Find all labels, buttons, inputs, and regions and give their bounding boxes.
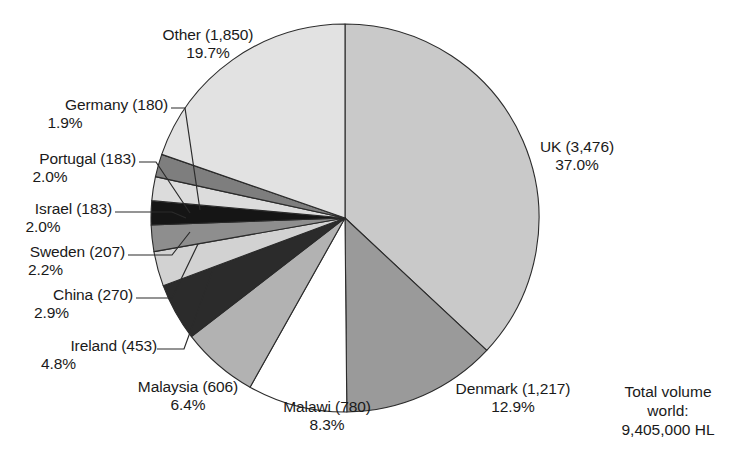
slice-label-ireland: Ireland (453) 4.8% xyxy=(0,337,157,373)
slice-label-malawi-percent: 8.3% xyxy=(253,416,401,434)
slice-label-china: China (270) 2.9% xyxy=(0,286,133,322)
slice-label-uk: UK (3,476) 37.0% xyxy=(512,138,642,174)
slice-label-other: Other (1,850) 19.7% xyxy=(118,26,298,62)
slice-label-israel-name: Israel (183) xyxy=(0,200,112,218)
slice-label-malaysia: Malaysia (606) 6.4% xyxy=(108,378,268,414)
slice-label-malaysia-name: Malaysia (606) xyxy=(108,378,268,396)
slice-label-portugal-percent: 2.0% xyxy=(0,168,136,186)
slice-label-sweden: Sweden (207) 2.2% xyxy=(0,243,125,279)
slice-label-other-name: Other (1,850) xyxy=(118,26,298,44)
pie-slices xyxy=(151,24,539,412)
slice-label-denmark: Denmark (1,217) 12.9% xyxy=(425,380,601,416)
slice-label-other-percent: 19.7% xyxy=(118,44,298,62)
slice-label-portugal-name: Portugal (183) xyxy=(0,150,136,168)
slice-label-ireland-percent: 4.8% xyxy=(0,355,157,373)
slice-label-sweden-percent: 2.2% xyxy=(0,261,125,279)
pie-chart: Other (1,850) 19.7% Germany (180) 1.9% P… xyxy=(0,0,740,450)
total-volume-note: Total volume world: 9,405,000 HL xyxy=(602,382,734,439)
slice-label-china-percent: 2.9% xyxy=(0,304,133,322)
slice-label-germany: Germany (180) 1.9% xyxy=(0,96,168,132)
slice-label-ireland-name: Ireland (453) xyxy=(0,337,157,355)
slice-label-malawi: Malawi (780) 8.3% xyxy=(253,398,401,434)
slice-label-malaysia-percent: 6.4% xyxy=(108,396,268,414)
slice-label-china-name: China (270) xyxy=(0,286,133,304)
slice-label-uk-name: UK (3,476) xyxy=(512,138,642,156)
slice-label-germany-name: Germany (180) xyxy=(0,96,168,114)
total-volume-line2: world: xyxy=(602,401,734,420)
slice-label-uk-percent: 37.0% xyxy=(512,156,642,174)
slice-label-denmark-percent: 12.9% xyxy=(425,398,601,416)
slice-label-portugal: Portugal (183) 2.0% xyxy=(0,150,136,186)
slice-label-germany-percent: 1.9% xyxy=(0,114,168,132)
slice-label-denmark-name: Denmark (1,217) xyxy=(425,380,601,398)
slice-label-sweden-name: Sweden (207) xyxy=(0,243,125,261)
slice-label-israel-percent: 2.0% xyxy=(0,218,112,236)
slice-label-malawi-name: Malawi (780) xyxy=(253,398,401,416)
total-volume-line1: Total volume xyxy=(602,382,734,401)
total-volume-line3: 9,405,000 HL xyxy=(602,420,734,439)
slice-label-israel: Israel (183) 2.0% xyxy=(0,200,112,236)
